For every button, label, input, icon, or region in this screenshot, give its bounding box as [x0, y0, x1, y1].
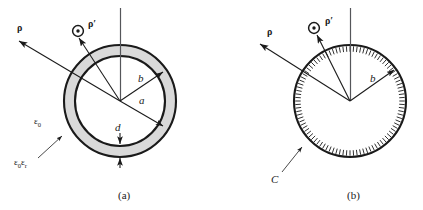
permittivity-leader-line [38, 136, 62, 158]
physics-diagram-svg: ρ ρ′ b a d ε0 ε0εr [0, 0, 423, 210]
thickness-d-label-a: d [115, 121, 121, 133]
rho-prime-label-b: ρ′ [325, 15, 333, 26]
panel-b-group: ρ ρ′ b C [260, 8, 406, 185]
radius-a-label-a: a [139, 94, 145, 106]
out-of-page-dot-a [76, 29, 79, 32]
rho-label-a: ρ [17, 22, 22, 33]
contour-c-label: C [271, 173, 279, 185]
radius-b-label-b: b [370, 72, 376, 84]
out-of-page-dot-b [312, 26, 315, 29]
panel-a-caption: (a) [118, 189, 130, 201]
panel-b-caption: (b) [347, 189, 360, 201]
contour-leader-line [282, 147, 302, 172]
rho-label-b: ρ [267, 26, 272, 37]
permittivity-free-space-label: ε0 [34, 116, 41, 128]
panel-a-group: ρ ρ′ b a d ε0 ε0εr [14, 8, 176, 169]
rho-prime-label-a: ρ′ [88, 18, 96, 29]
radius-b-label-a: b [138, 72, 144, 84]
rho-vector-arrow-b[interactable] [260, 44, 350, 101]
permittivity-material-label: ε0εr [14, 157, 28, 169]
figure-root: ρ ρ′ b a d ε0 ε0εr [0, 0, 423, 210]
